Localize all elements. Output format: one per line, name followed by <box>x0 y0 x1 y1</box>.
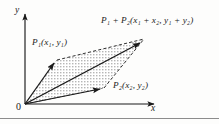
x-axis-label: x <box>151 104 155 114</box>
vector-addition-figure: P₁ + P₂(x₁ + x₂, y₁ + y₂) P₁(x₁, y₁) P₂(… <box>0 0 219 124</box>
label-sum-point: P₁ + P₂(x₁ + x₂, y₁ + y₂) <box>101 16 193 25</box>
y-axis-label: y <box>15 6 19 16</box>
vector-arrow-sum <box>25 43 140 104</box>
label-point-p1: P₁(x₁, y₁) <box>32 38 67 47</box>
label-point-p2: P₂(x₂, y₂) <box>113 81 148 90</box>
origin-label: 0 <box>16 102 21 112</box>
